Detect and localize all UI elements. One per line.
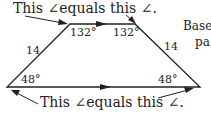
- angle-top-left: 132°: [70, 26, 97, 39]
- side-text-line2: pa: [195, 35, 210, 49]
- pointer-bottom-left-arrowhead-icon: [11, 90, 20, 96]
- top-caption: This ∠equals this ∠.: [13, 0, 157, 16]
- angle-bottom-right: 48°: [158, 73, 178, 86]
- left-side-length: 14: [26, 44, 40, 57]
- trapezoid-diagram: This ∠equals this ∠. 132° 132° 48° 48° 1…: [0, 0, 211, 122]
- right-side-length: 14: [164, 40, 178, 53]
- parallel-arrow-bottom-icon: [100, 84, 111, 90]
- pointer-top-left: [25, 16, 63, 23]
- angle-top-right: 132°: [113, 26, 140, 39]
- pointer-bottom-left: [15, 92, 38, 104]
- pointer-top-left-arrowhead-icon: [58, 19, 68, 25]
- side-text-line1: Base: [183, 19, 211, 33]
- parallel-arrow-top-icon: [96, 21, 107, 27]
- angle-bottom-left: 48°: [21, 73, 41, 86]
- pointer-bottom-right-arrowhead-icon: [184, 87, 194, 93]
